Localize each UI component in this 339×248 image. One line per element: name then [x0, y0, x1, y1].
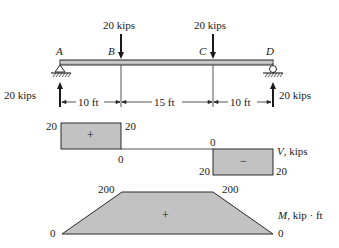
reaction-arrow-d-icon: [270, 82, 276, 107]
reaction-label-d: 20 kips: [279, 89, 311, 101]
moment-value-c: 200: [222, 183, 239, 195]
point-label-d: D: [266, 45, 274, 57]
shear-value-b-top: 20: [125, 120, 136, 132]
moment-value-a: 0: [50, 227, 56, 239]
shear-positive-sign: +: [87, 129, 94, 141]
point-label-c: C: [199, 45, 206, 57]
load-arrow-c-icon: [210, 34, 216, 59]
moment-axis-label: M, kip · ft: [278, 209, 323, 221]
shear-value-b-bottom: 0: [118, 153, 124, 165]
shear-value-c-top: 0: [210, 136, 216, 148]
span-label-ab: 10 ft: [78, 96, 98, 108]
span-label-bc: 15 ft: [154, 96, 174, 108]
moment-value-b: 200: [98, 183, 115, 195]
span-label-cd: 10 ft: [230, 96, 250, 108]
moment-positive-sign: +: [162, 209, 169, 221]
point-label-a: A: [56, 45, 63, 57]
load-arrow-b-icon: [118, 34, 124, 59]
pin-support-icon: [51, 65, 71, 77]
shear-value-d: 20: [276, 165, 287, 177]
moment-value-d: 0: [278, 227, 284, 239]
point-label-b: B: [108, 45, 115, 57]
shear-value-c-bottom: 20: [199, 165, 210, 177]
reaction-arrow-a-icon: [57, 82, 63, 107]
load-label-c: 20 kips: [194, 19, 226, 31]
shear-axis-label: V, kips: [277, 145, 308, 157]
shear-value-a: 20: [46, 120, 57, 132]
load-label-b: 20 kips: [103, 19, 135, 31]
beam: [60, 60, 273, 65]
reaction-label-a: 20 kips: [4, 89, 36, 101]
shear-negative-sign: −: [240, 155, 247, 167]
roller-support-icon: [263, 66, 283, 78]
